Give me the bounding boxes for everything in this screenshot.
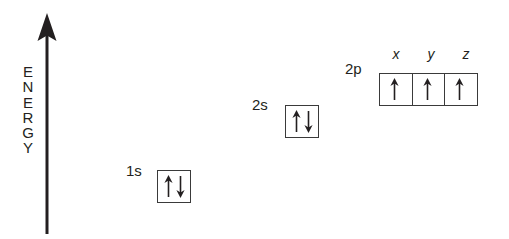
orbital-box-row-1s: [157, 170, 191, 203]
electron-spin-up-icon: [423, 78, 432, 101]
electron-spin-down-icon: [176, 175, 185, 198]
orbital-label-2s: 2s: [252, 96, 268, 113]
orbital-sublabel-pz: z: [449, 46, 483, 62]
orbital-sublabel-px: x: [379, 46, 413, 62]
electron-spin-down-icon: [304, 110, 313, 133]
orbital-sublabel-py: y: [414, 46, 448, 62]
orbital-box-1s[interactable]: [157, 170, 191, 203]
energy-letter: R: [23, 110, 34, 125]
orbital-box-2pz[interactable]: [444, 73, 478, 106]
electron-spin-up-icon: [390, 78, 399, 101]
electron-spin-up-icon: [292, 110, 301, 133]
energy-letter: N: [23, 79, 34, 94]
electron-single: [445, 74, 477, 105]
orbital-energy-diagram: E N E R G Y 1s: [0, 0, 509, 239]
electron-pair: [286, 106, 318, 137]
orbital-box-row-2s: [285, 105, 319, 138]
orbital-label-1s: 1s: [126, 162, 142, 179]
electron-single: [380, 74, 412, 105]
energy-letter: G: [22, 125, 34, 140]
electron-pair: [158, 171, 190, 202]
up-arrow-icon: [34, 10, 60, 236]
energy-letter: E: [23, 64, 33, 79]
energy-letter: Y: [23, 140, 33, 155]
electron-spin-up-icon: [164, 175, 173, 198]
energy-axis-label: E N E R G Y: [20, 64, 36, 156]
energy-letter: E: [23, 95, 33, 110]
orbital-box-2s[interactable]: [285, 105, 319, 138]
orbital-box-2py[interactable]: [412, 73, 446, 106]
energy-axis: [34, 10, 60, 236]
electron-spin-up-icon: [455, 78, 464, 101]
electron-single: [413, 74, 445, 105]
orbital-box-row-2p: [379, 73, 478, 106]
orbital-label-2p: 2p: [345, 60, 362, 77]
orbital-box-2px[interactable]: [379, 73, 413, 106]
